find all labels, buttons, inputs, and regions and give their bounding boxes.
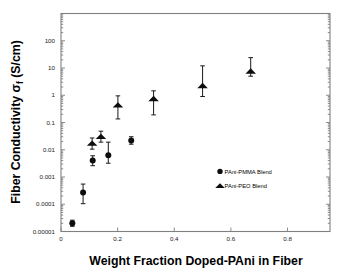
x-tick-label: 0.4 [170, 235, 179, 242]
x-tick-label: 0.8 [283, 235, 292, 242]
data-point-group [197, 66, 208, 97]
triangle-marker [96, 134, 107, 139]
legend-label: PAni-PEO Blend [225, 183, 267, 189]
x-tick-label: 0.6 [227, 235, 236, 242]
triangle-marker [197, 83, 208, 88]
data-point-group [113, 96, 124, 119]
data-point-group [105, 142, 111, 163]
x-tick-label: 0.2 [113, 235, 122, 242]
y-tick-label: 0.001 [40, 173, 56, 180]
chart-figure: 0.000010.00010.0010.010.1110100 00.20.40… [0, 0, 345, 272]
y-axis-title-main: Fiber Conductivity [9, 92, 23, 203]
legend-entry: PAni-PMMA Blend [217, 169, 272, 175]
data-points-layer [69, 58, 256, 227]
legend-circle-icon [217, 169, 222, 174]
y-axis-ticks: 0.000010.00010.0010.010.1110100 [33, 37, 330, 235]
svg-text:Fiber Conductivity σf (S/cm): Fiber Conductivity σf (S/cm) [9, 40, 25, 204]
x-tick-label: 0 [59, 235, 63, 242]
data-point-group [90, 156, 96, 166]
data-point-group [96, 131, 107, 142]
circle-marker [105, 152, 111, 158]
data-point-group [87, 138, 98, 149]
y-tick-label: 10 [48, 64, 55, 71]
circle-marker [69, 220, 75, 226]
circle-marker [80, 189, 86, 195]
circle-marker [90, 158, 96, 164]
data-point-group [245, 58, 256, 77]
y-axis-minor-ticks [61, 15, 330, 224]
conductivity-scatter-chart: 0.000010.00010.0010.010.1110100 00.20.40… [0, 0, 345, 272]
legend-triangle-icon [215, 183, 224, 188]
y-tick-label: 1 [52, 91, 56, 98]
legend-label: PAni-PMMA Blend [225, 169, 272, 175]
data-point-group [80, 184, 86, 204]
data-point-group [128, 137, 134, 144]
plot-frame [61, 14, 330, 232]
triangle-marker [148, 96, 159, 101]
triangle-marker [245, 68, 256, 73]
chart-legend: PAni-PMMA BlendPAni-PEO Blend [215, 169, 272, 190]
y-axis-title: Fiber Conductivity σf (S/cm) [9, 40, 25, 204]
data-point-group [69, 220, 75, 226]
y-axis-title-units: (S/cm) [9, 40, 23, 81]
y-tick-label: 0.00001 [33, 228, 56, 235]
data-point-group [148, 91, 159, 115]
y-tick-label: 0.1 [46, 119, 55, 126]
triangle-marker [113, 102, 124, 107]
y-tick-label: 0.01 [43, 146, 56, 153]
y-tick-label: 0.0001 [36, 200, 55, 207]
circle-marker [128, 137, 134, 143]
x-axis-ticks: 00.20.40.60.8 [59, 228, 292, 243]
y-tick-label: 100 [45, 37, 56, 44]
x-axis-title: Weight Fraction Doped-PAni in Fiber [89, 254, 303, 268]
legend-entry: PAni-PEO Blend [215, 183, 267, 189]
triangle-marker [87, 140, 98, 145]
